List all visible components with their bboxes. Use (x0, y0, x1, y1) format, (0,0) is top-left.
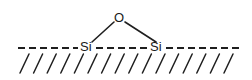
figure-canvas: O Si Si (0, 0, 252, 80)
chemical-structure-figure: O Si Si (0, 0, 252, 80)
hatch-mark (102, 54, 111, 73)
hatch-mark (74, 54, 83, 73)
hatch-mark (197, 54, 206, 73)
hatch-mark (224, 54, 233, 73)
bond-o-si-left (92, 22, 114, 42)
hatch-mark (129, 54, 138, 73)
hatch-mark (61, 54, 70, 73)
bond-group (92, 22, 156, 42)
hatch-mark (183, 54, 192, 73)
hatch-mark (170, 54, 179, 73)
hatch-mark (20, 54, 29, 73)
surface-hatching (20, 54, 233, 73)
hatch-mark (34, 54, 43, 73)
hatch-mark (88, 54, 97, 73)
hatch-mark (115, 54, 124, 73)
hatch-mark (142, 54, 151, 73)
atom-label-silicon-right: Si (150, 39, 162, 54)
hatch-mark (47, 54, 56, 73)
atom-label-silicon-left: Si (80, 39, 92, 54)
hatch-mark (156, 54, 165, 73)
hatch-mark (210, 54, 219, 73)
atom-label-oxygen: O (114, 10, 124, 25)
